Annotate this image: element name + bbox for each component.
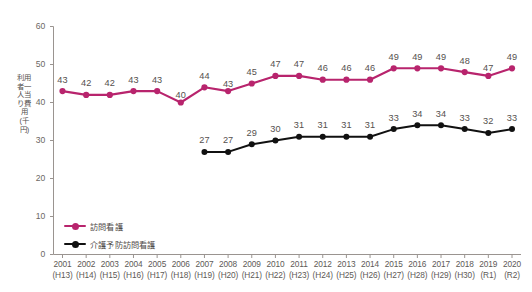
legend-label-0: 訪問看護: [90, 220, 123, 232]
y-tick-label: 50: [24, 59, 46, 69]
data-point-label: 47: [477, 63, 499, 73]
data-point: [225, 149, 231, 155]
data-point-label: 48: [454, 56, 476, 66]
data-point: [154, 88, 160, 94]
data-point-label: 34: [430, 109, 452, 119]
data-point: [296, 134, 302, 140]
data-point: [438, 65, 444, 71]
y-tick-label: 40: [24, 97, 46, 107]
data-point-label: 30: [264, 124, 286, 134]
data-point-label: 27: [193, 135, 215, 145]
data-point-label: 47: [264, 59, 286, 69]
data-point: [485, 130, 491, 136]
y-tick-label: 10: [24, 211, 46, 221]
data-point-label: 40: [170, 90, 192, 100]
data-point-label: 45: [241, 67, 263, 77]
data-point-label: 31: [335, 120, 357, 130]
data-point-label: 31: [312, 120, 334, 130]
x-tick-year: 2020: [497, 259, 527, 269]
data-point-label: 49: [406, 52, 428, 62]
data-point-label: 49: [501, 52, 523, 62]
data-point: [296, 73, 302, 79]
data-point: [83, 92, 89, 98]
data-point-label: 32: [477, 116, 499, 126]
data-point-label: 27: [217, 135, 239, 145]
data-point-label: 31: [288, 120, 310, 130]
data-point-label: 33: [383, 113, 405, 123]
data-point: [272, 138, 278, 144]
data-point: [225, 88, 231, 94]
x-tick-label: 2020(R2): [497, 259, 527, 280]
data-point: [201, 84, 207, 90]
data-point-label: 43: [122, 75, 144, 85]
data-point: [414, 122, 420, 128]
data-point-label: 49: [383, 52, 405, 62]
data-point: [320, 134, 326, 140]
y-tick-label: 20: [24, 173, 46, 183]
data-point-label: 44: [193, 71, 215, 81]
data-point: [320, 77, 326, 83]
data-point: [391, 65, 397, 71]
legend-item-preventive-visiting-nursing[interactable]: 介護予防訪問看護: [64, 238, 156, 250]
data-point-label: 33: [454, 113, 476, 123]
data-point: [59, 88, 65, 94]
data-point-label: 43: [217, 79, 239, 89]
data-point: [462, 126, 468, 132]
data-point: [343, 134, 349, 140]
data-point-label: 42: [75, 78, 97, 88]
data-point: [391, 126, 397, 132]
legend-marker-pink: [64, 222, 86, 231]
data-point-label: 46: [335, 63, 357, 73]
legend-marker-black: [64, 240, 86, 249]
y-tick-label: 60: [24, 21, 46, 31]
series-line-0: [63, 68, 513, 102]
x-tick-era: (R2): [497, 270, 527, 280]
data-point-label: 46: [312, 63, 334, 73]
data-point: [414, 65, 420, 71]
data-point-label: 42: [99, 78, 121, 88]
data-point: [201, 149, 207, 155]
y-tick-label: 0: [24, 249, 46, 259]
data-point-label: 43: [146, 75, 168, 85]
line-chart: 利用者一人当り費用(千円) 0102030405060 2001(H13)200…: [0, 0, 532, 292]
legend-label-1: 介護予防訪問看護: [90, 238, 156, 250]
y-tick-label: 30: [24, 135, 46, 145]
data-point: [509, 126, 515, 132]
data-point: [272, 73, 278, 79]
legend-item-visiting-nursing[interactable]: 訪問看護: [64, 220, 123, 232]
data-point-label: 47: [288, 59, 310, 69]
data-point-label: 46: [359, 63, 381, 73]
data-point-label: 29: [241, 128, 263, 138]
data-point: [367, 77, 373, 83]
data-point: [509, 65, 515, 71]
data-point: [343, 77, 349, 83]
data-point: [249, 80, 255, 86]
data-point: [462, 69, 468, 75]
data-point: [249, 141, 255, 147]
data-point: [178, 99, 184, 105]
data-point: [107, 92, 113, 98]
data-point-label: 33: [501, 113, 523, 123]
data-point: [130, 88, 136, 94]
data-point-label: 31: [359, 120, 381, 130]
data-point: [367, 134, 373, 140]
data-point-label: 34: [406, 109, 428, 119]
data-point: [438, 122, 444, 128]
data-point-label: 43: [52, 75, 74, 85]
data-point-label: 49: [430, 52, 452, 62]
data-point: [485, 73, 491, 79]
